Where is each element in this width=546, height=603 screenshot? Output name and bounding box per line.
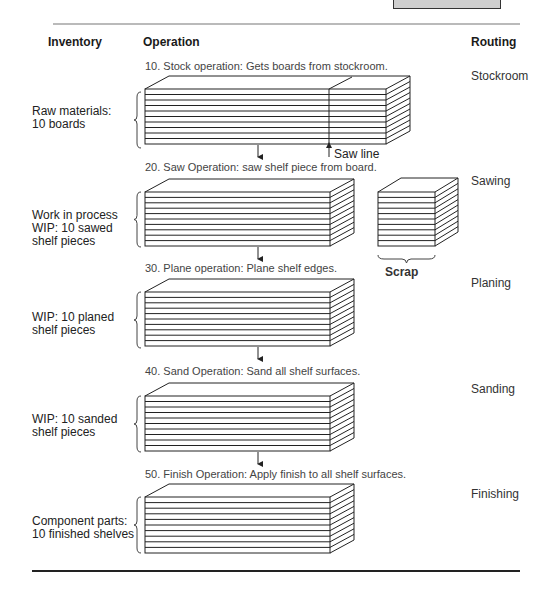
- saw-line-top: [329, 77, 352, 89]
- scrap-brace: [378, 255, 435, 263]
- inventory-brace: [134, 292, 141, 348]
- board-stack-planed: [145, 279, 354, 346]
- board-stack-finished: [145, 484, 354, 553]
- process-flow-diagram: [0, 0, 546, 603]
- inventory-brace: [134, 396, 141, 452]
- board-stack-raw: [145, 76, 410, 144]
- board-stack-scrap: [378, 178, 458, 246]
- inventory-brace: [134, 92, 141, 148]
- board-stack-sanded: [145, 383, 354, 451]
- inventory-brace: [134, 192, 141, 247]
- inventory-brace: [134, 497, 141, 553]
- board-stack-sawed: [145, 179, 354, 246]
